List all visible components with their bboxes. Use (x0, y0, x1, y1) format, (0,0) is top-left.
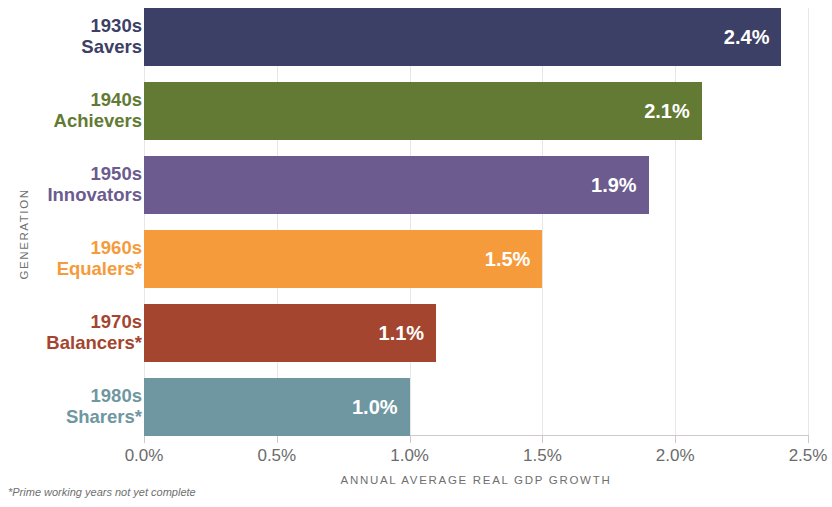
generation-label: 1950sInnovators (47, 164, 142, 205)
bar-row: 1970sBalancers*1.1% (0, 304, 832, 362)
x-axis-title: ANNUAL AVERAGE REAL GDP GROWTH (144, 474, 808, 486)
x-axis-tick (808, 436, 809, 443)
gridline (808, 8, 809, 436)
x-axis-tick-label: 0.5% (237, 446, 317, 466)
generation-decade: 1970s (46, 312, 142, 333)
generation-decade: 1930s (81, 16, 142, 37)
gdp-growth-by-generation-chart: GENERATION ANNUAL AVERAGE REAL GDP GROWT… (0, 0, 832, 507)
bar: 1.1% (144, 304, 436, 362)
bar-value-label: 1.9% (591, 174, 637, 197)
generation-cohort: Balancers* (46, 333, 142, 354)
bar-row: 1930sSavers2.4% (0, 8, 832, 66)
bar: 1.5% (144, 230, 542, 288)
gridline (410, 8, 411, 436)
generation-decade: 1940s (54, 90, 142, 111)
generation-cohort: Achievers (54, 111, 142, 132)
bar-row: 1960sEqualers*1.5% (0, 230, 832, 288)
gridline (144, 8, 145, 436)
gridline (675, 8, 676, 436)
bar-value-label: 1.0% (352, 396, 398, 419)
generation-decade: 1980s (66, 386, 142, 407)
x-axis-tick (542, 436, 543, 443)
generation-label: 1980sSharers* (66, 386, 142, 427)
bar-value-label: 2.4% (724, 26, 770, 49)
bar: 2.4% (144, 8, 781, 66)
generation-label: 1970sBalancers* (46, 312, 142, 353)
generation-cohort: Sharers* (66, 407, 142, 428)
generation-cohort: Equalers* (57, 259, 142, 280)
bar-value-label: 1.5% (485, 248, 531, 271)
x-axis-tick-label: 1.5% (502, 446, 582, 466)
bar-row: 1950sInnovators1.9% (0, 156, 832, 214)
footnote: *Prime working years not yet complete (8, 486, 196, 498)
generation-decade: 1960s (57, 238, 142, 259)
bar-row: 1980sSharers*1.0% (0, 378, 832, 436)
generation-label: 1930sSavers (81, 16, 142, 57)
generation-decade: 1950s (47, 164, 142, 185)
x-axis-tick (675, 436, 676, 443)
gridlines (144, 8, 808, 436)
generation-label: 1960sEqualers* (57, 238, 142, 279)
gridline (542, 8, 543, 436)
generation-cohort: Innovators (47, 185, 142, 206)
x-axis-tick-label: 1.0% (370, 446, 450, 466)
bar-value-label: 2.1% (644, 100, 690, 123)
x-axis-tick-label: 2.0% (635, 446, 715, 466)
bar-value-label: 1.1% (379, 322, 425, 345)
bar: 2.1% (144, 82, 702, 140)
x-axis-tick (144, 436, 145, 443)
generation-label: 1940sAchievers (54, 90, 142, 131)
x-axis-tick-label: 0.0% (104, 446, 184, 466)
bar: 1.9% (144, 156, 649, 214)
x-axis-tick (410, 436, 411, 443)
bar: 1.0% (144, 378, 410, 436)
x-axis-tick-label: 2.5% (768, 446, 832, 466)
x-axis-tick (277, 436, 278, 443)
generation-cohort: Savers (81, 37, 142, 58)
bar-row: 1940sAchievers2.1% (0, 82, 832, 140)
gridline (277, 8, 278, 436)
